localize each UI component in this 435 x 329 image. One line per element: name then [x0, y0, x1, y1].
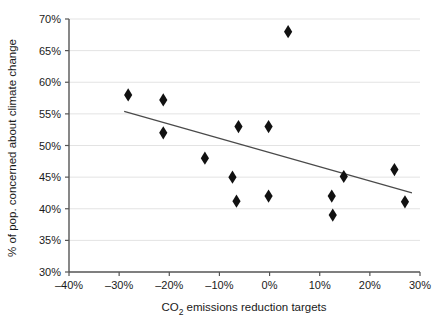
x-tick-label: 10% [309, 279, 331, 291]
data-point-marker [124, 88, 132, 101]
data-point-marker [201, 152, 209, 165]
data-point-marker [329, 208, 337, 221]
x-tick-label: –10% [205, 279, 233, 291]
y-tick-label: 55% [39, 108, 61, 120]
data-point-marker [234, 120, 242, 133]
y-tick-label: 40% [39, 203, 61, 215]
x-tick-label: 30% [409, 279, 431, 291]
data-point-marker [228, 171, 236, 184]
gridlines [69, 19, 420, 240]
x-tick-label: 0% [262, 279, 278, 291]
y-tick-label: 45% [39, 171, 61, 183]
data-point-marker [390, 163, 398, 176]
data-point-marker [232, 195, 240, 208]
chart-canvas: –40%–30%–20%–10%0%10%20%30% 30%35%40%45%… [0, 0, 435, 329]
x-axis-ticks: –40%–30%–20%–10%0%10%20%30% [55, 272, 431, 291]
data-point-marker [159, 93, 167, 106]
y-axis-ticks: 30%35%40%45%50%55%60%65%70% [39, 13, 69, 278]
data-point-marker [159, 126, 167, 139]
data-point-marker [264, 120, 272, 133]
x-tick-label: 20% [359, 279, 381, 291]
y-tick-label: 70% [39, 13, 61, 25]
x-axis-title: CO2 emissions reduction targets [161, 301, 326, 317]
x-tick-label: –30% [105, 279, 133, 291]
y-tick-label: 35% [39, 234, 61, 246]
data-point-marker [340, 170, 348, 183]
y-tick-label: 60% [39, 76, 61, 88]
y-axis-title: % of pop. concerned about climate change [6, 39, 18, 257]
y-tick-label: 50% [39, 140, 61, 152]
data-point-marker [401, 195, 409, 208]
y-tick-label: 30% [39, 266, 61, 278]
scatter-chart: –40%–30%–20%–10%0%10%20%30% 30%35%40%45%… [0, 0, 435, 329]
data-point-marker [264, 190, 272, 203]
x-tick-label: –40% [55, 279, 83, 291]
data-point-marker [328, 190, 336, 203]
x-tick-label: –20% [155, 279, 183, 291]
data-point-marker [284, 25, 292, 38]
y-tick-label: 65% [39, 45, 61, 57]
